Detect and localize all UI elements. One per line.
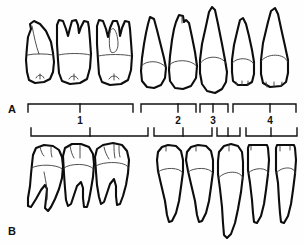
tooth-mandibular-third-molar — [95, 143, 129, 205]
bracket-group-3-row-a — [200, 104, 228, 112]
dental-chart-figure: 1 2 3 4 — [0, 0, 304, 244]
tooth-mandibular-canine — [218, 144, 243, 238]
tooth-mandibular-lateral-incisor — [248, 145, 269, 223]
tooth-maxillary-first-molar — [26, 21, 54, 83]
bracket-group-4-row-a — [233, 104, 296, 112]
group-number-2: 2 — [175, 115, 181, 126]
row-label-b: B — [8, 225, 16, 237]
maxillary-row — [26, 7, 288, 93]
group-number-3: 3 — [210, 115, 216, 126]
mandibular-row — [28, 143, 296, 238]
tooth-mandibular-second-premolar — [186, 145, 213, 222]
tooth-maxillary-second-premolar — [169, 15, 197, 89]
tooth-maxillary-canine — [200, 7, 227, 93]
row-a-group-brackets — [28, 104, 296, 112]
tooth-maxillary-third-molar — [97, 20, 132, 85]
row-b-group-brackets — [31, 128, 297, 136]
tooth-mandibular-first-premolar — [157, 145, 183, 222]
tooth-mandibular-second-molar — [63, 144, 94, 207]
row-label-a: A — [8, 103, 16, 115]
tooth-mandibular-first-molar — [28, 145, 63, 211]
group-number-1: 1 — [77, 115, 83, 126]
group-number-4: 4 — [267, 115, 273, 126]
tooth-maxillary-second-molar — [57, 20, 91, 84]
tooth-maxillary-lateral-incisor — [232, 18, 254, 85]
tooth-maxillary-first-premolar — [141, 17, 166, 88]
bracket-group-2-row-a — [141, 104, 196, 112]
tooth-mandibular-central-incisor — [276, 145, 296, 223]
tooth-maxillary-central-incisor — [261, 8, 288, 87]
